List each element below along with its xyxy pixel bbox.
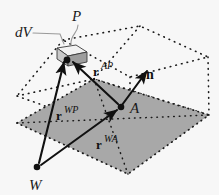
box-edge-back — [94, 26, 140, 79]
point-dot-p — [64, 57, 71, 64]
label-r-wa-base: r — [96, 137, 102, 152]
box-edge-right — [208, 57, 209, 115]
surface-fill — [17, 79, 209, 174]
label-w: W — [29, 177, 43, 193]
label-vector-r-ap: r AP — [93, 60, 113, 79]
point-dot-w — [34, 164, 41, 171]
label-dv: dV — [15, 24, 34, 40]
label-r-ap-superscript: AP — [100, 60, 113, 71]
label-normal-vector-n: n — [146, 67, 154, 82]
dv-leader-line — [33, 33, 64, 44]
figure-canvas: dV P A W n r AP r WP r WA — [0, 0, 219, 195]
label-a: A — [129, 100, 140, 116]
shaded-surface — [17, 79, 209, 174]
label-r-wa-superscript: WA — [104, 133, 119, 144]
volume-element-dv — [57, 45, 87, 66]
label-r-wp-base: r — [56, 108, 62, 123]
label-leader-lines — [33, 25, 78, 45]
vector-geometry-figure: dV P A W n r AP r WP r WA — [0, 0, 219, 195]
label-r-wp-superscript: WP — [64, 104, 78, 115]
p-leader-line — [71, 25, 78, 45]
label-p: P — [71, 8, 81, 24]
point-dot-a — [118, 104, 125, 111]
label-r-ap-base: r — [93, 64, 99, 79]
